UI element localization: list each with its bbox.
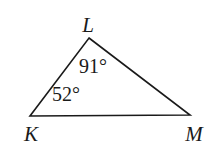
angle-measure-at-k: 52°: [52, 84, 80, 104]
triangle-figure: L K M 91° 52°: [0, 0, 215, 162]
angle-measure-at-l: 91°: [79, 56, 107, 76]
vertex-label-m: M: [185, 124, 203, 145]
vertex-label-l: L: [82, 15, 94, 36]
vertex-label-k: K: [24, 124, 38, 145]
